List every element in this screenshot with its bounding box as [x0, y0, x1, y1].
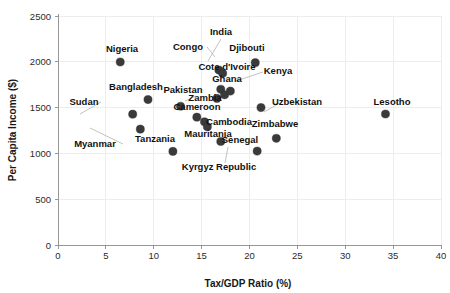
data-point[interactable] [272, 134, 280, 142]
data-point[interactable] [381, 110, 389, 118]
y-axis-tick-label: 2500 [30, 11, 51, 22]
data-point[interactable] [193, 113, 201, 121]
y-axis-tick-label: 0 [46, 240, 51, 251]
data-point[interactable] [226, 87, 234, 95]
data-point-label-cambodia: Cambodia [206, 116, 253, 127]
y-axis-title: Per Capita Income ($) [7, 79, 18, 181]
x-axis-title: Tax/GDP Ratio (%) [205, 278, 292, 289]
data-point-label-kyrgyz-republic: Kyrgyz Republic [182, 161, 256, 172]
data-point[interactable] [253, 147, 261, 155]
y-axis-tick-label: 1500 [30, 102, 51, 113]
scatter-chart: 051015202530354005001000150020002500 Nig… [0, 0, 450, 293]
x-axis-tick-label: 25 [292, 250, 303, 261]
data-point-label-djibouti: Djibouti [229, 42, 264, 53]
data-point-label-india: India [210, 26, 233, 37]
india-leader [208, 39, 221, 61]
x-axis-tick-label: 30 [340, 250, 351, 261]
data-point-label-lesotho: Lesotho [374, 96, 411, 107]
data-point-label-congo: Congo [173, 41, 203, 52]
data-point-label-senegal: Senegal [222, 134, 258, 145]
y-axis-tick-label: 500 [35, 194, 51, 205]
x-axis-tick-label: 35 [388, 250, 399, 261]
data-point[interactable] [116, 58, 124, 66]
data-point-label-kenya: Kenya [264, 65, 293, 76]
data-point[interactable] [129, 110, 137, 118]
data-point-label-cote-d-ivoire: Cote d'Ivoire [198, 61, 255, 72]
data-point-label-ghana: Ghana [212, 73, 242, 84]
y-axis-tick-label: 2000 [30, 56, 51, 67]
x-axis-tick-label: 5 [103, 250, 108, 261]
x-axis-tick-label: 0 [55, 250, 60, 261]
data-point-label-uzbekistan: Uzbekistan [272, 96, 322, 107]
y-axis-tick-label: 1000 [30, 148, 51, 159]
data-point-label-layer: NigeriaBangladeshSudanMyanmarPakistanTan… [69, 26, 410, 172]
data-point-label-myanmar: Myanmar [74, 138, 116, 149]
data-point-label-nigeria: Nigeria [106, 43, 139, 54]
x-axis-tick-label: 40 [436, 250, 447, 261]
data-point[interactable] [169, 147, 177, 155]
data-point[interactable] [257, 104, 265, 112]
data-point-label-bangladesh: Bangladesh [109, 81, 163, 92]
data-point[interactable] [136, 125, 144, 133]
data-point-label-sudan: Sudan [69, 96, 98, 107]
data-point-label-zambia: Zambia [188, 92, 222, 103]
chart-canvas: 051015202530354005001000150020002500 Nig… [0, 0, 450, 293]
x-axis-tick-label: 15 [196, 250, 207, 261]
data-point[interactable] [144, 95, 152, 103]
data-point-label-tanzania: Tanzania [135, 133, 176, 144]
data-point-label-zimbabwe: Zimbabwe [252, 118, 298, 129]
x-axis-tick-label: 20 [244, 250, 255, 261]
x-axis-tick-label: 10 [148, 250, 159, 261]
